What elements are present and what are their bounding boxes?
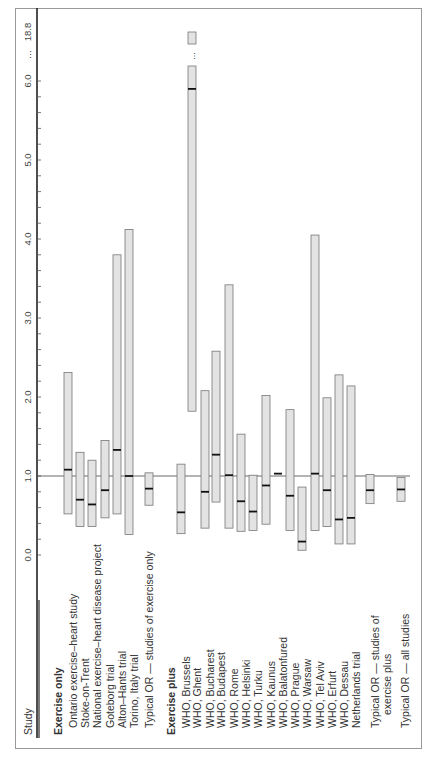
study-bar <box>76 452 84 526</box>
study-label: Ontario exercise–heart study <box>67 593 79 728</box>
study-label: WHO, Prague <box>289 662 301 728</box>
study-bar: ... <box>187 32 197 411</box>
study-label: Goteborg trial <box>104 664 116 728</box>
study-bar <box>249 475 257 530</box>
study-label: Netherlands trial <box>350 652 362 728</box>
summary-label-exercise-plus-2: exercise plus <box>381 654 393 715</box>
study-bars: ... <box>64 32 405 550</box>
study-bar <box>177 464 185 534</box>
ci-bar <box>64 373 72 514</box>
ci-bar <box>366 474 374 503</box>
ci-bar <box>101 440 109 517</box>
axis-tick-label: 4.0 <box>22 232 33 245</box>
ci-bar <box>311 235 319 530</box>
ci-bar <box>225 285 233 528</box>
study-header: Study <box>22 707 34 735</box>
study-label: WHO, Dessau <box>338 661 350 728</box>
axis-tick-label: 1.0 <box>22 469 33 482</box>
study-label: National exercise–heart disease project <box>91 544 103 728</box>
study-labels: StudyExercise onlyOntario exercise–heart… <box>22 544 411 738</box>
axis-tick-label-max: 18.8 <box>22 23 33 42</box>
ci-bar <box>347 386 355 544</box>
ci-bar <box>262 395 270 524</box>
study-bar <box>237 434 245 531</box>
summary-bar-exercise-plus <box>366 474 374 503</box>
study-label: Torino, Italy trial <box>128 654 140 728</box>
ci-bar <box>113 255 121 514</box>
study-label: WHO, Rome <box>228 668 240 728</box>
summary-bar-exercise-only <box>145 473 153 505</box>
study-bar <box>298 487 306 550</box>
study-bar <box>225 285 233 528</box>
axis-tick-label: 3.0 <box>22 311 33 324</box>
study-bar <box>262 395 270 524</box>
study-bar <box>347 386 355 544</box>
study-label: WHO, Balatonfured <box>277 637 289 728</box>
axis-tick-label: 0.0 <box>22 548 33 561</box>
ci-bar <box>88 460 96 526</box>
study-label: WHO, Tel Aviv <box>314 661 326 728</box>
study-bar <box>125 230 133 535</box>
break-dots: ... <box>187 52 197 60</box>
study-bar <box>286 410 294 531</box>
summary-label-exercise-plus: Typical OR — studies of <box>369 615 381 728</box>
forest-plot-svg: 0.01.02.03.04.05.06.0…18.8 ... StudyExer… <box>0 0 436 773</box>
forest-plot: 0.01.02.03.04.05.06.0…18.8 ... StudyExer… <box>0 0 436 773</box>
group-header-exercise-plus: Exercise plus <box>165 667 177 735</box>
ci-bar <box>237 434 245 531</box>
ci-bar <box>201 391 209 528</box>
axis-tick-label: 6.0 <box>22 74 33 87</box>
study-label: WHO, Warsaw <box>301 659 313 728</box>
summary-label-exercise-only: Typical OR — studies of exercise only <box>143 550 155 728</box>
study-bar <box>323 398 331 527</box>
group-header-exercise-only: Exercise only <box>52 667 64 735</box>
study-label: WHO, Budapest <box>215 652 227 728</box>
ci-bar <box>188 66 196 411</box>
summary-bar-all <box>397 478 405 502</box>
axis-tick-label: 2.0 <box>22 390 33 403</box>
study-label: WHO, Erfurt <box>326 671 338 728</box>
axis-tick-label: 5.0 <box>22 153 33 166</box>
ci-bar <box>249 475 257 530</box>
ci-bar <box>212 351 220 502</box>
study-label: WHO, Ghent <box>191 668 203 728</box>
ci-bar <box>286 410 294 531</box>
study-bar <box>212 351 220 502</box>
study-bar <box>101 440 109 517</box>
study-label: WHO, Helsinki <box>240 660 252 728</box>
summary-label-all: Typical OR — all studies <box>399 614 411 728</box>
axis-break-label: … <box>22 50 33 60</box>
study-bar <box>88 460 96 526</box>
study-label: Alton–Hants trial <box>116 651 128 728</box>
study-bar <box>64 373 72 514</box>
ci-bar <box>323 398 331 527</box>
study-label: Stoke-on-Trent <box>79 658 91 728</box>
ci-bar <box>177 464 185 534</box>
ci-bar-top <box>188 32 196 44</box>
study-label: WHO, Kaunus <box>265 661 277 728</box>
study-bar <box>113 255 121 514</box>
study-bar <box>311 235 319 530</box>
study-bar <box>201 391 209 528</box>
ci-bar <box>125 230 133 535</box>
study-label: WHO, Turku <box>252 670 264 728</box>
ci-bar <box>76 452 84 526</box>
study-bar <box>335 375 343 544</box>
